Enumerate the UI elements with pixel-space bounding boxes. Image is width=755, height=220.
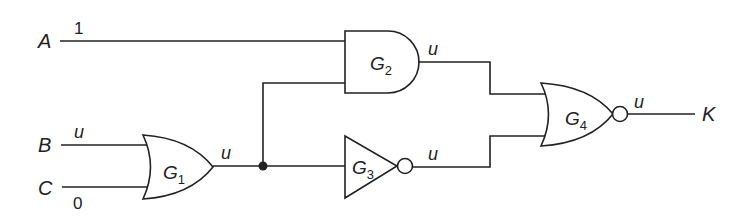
- output-label-k: K: [702, 103, 717, 125]
- gate-g1-or: G1: [143, 135, 213, 199]
- g2-output-value: u: [428, 39, 438, 59]
- input-label-b: B: [38, 134, 51, 156]
- g1-output-value: u: [221, 143, 231, 163]
- g4-inversion-bubble: [613, 107, 628, 122]
- input-label-a: A: [37, 30, 51, 52]
- gate-g3-not: G3: [345, 136, 413, 198]
- wire-g1-to-g2: [263, 83, 345, 166]
- g3-inversion-bubble: [398, 159, 413, 174]
- logic-circuit: A 1 B u C 0 G1 u G2 u G3 u G4 u K: [0, 0, 755, 220]
- gate-g4-nor: G4: [541, 83, 628, 146]
- input-value-b: u: [74, 122, 84, 142]
- g3-output-value: u: [428, 144, 438, 164]
- input-label-c: C: [38, 177, 53, 199]
- g4-output-value: u: [634, 92, 644, 112]
- input-value-a: 1: [74, 19, 83, 38]
- input-value-c: 0: [73, 194, 82, 213]
- gate-g2-and: G2: [345, 31, 419, 93]
- wire-g2-to-g4: [418, 62, 545, 94]
